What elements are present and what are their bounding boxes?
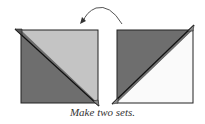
right-square-block (112, 25, 194, 104)
caption: Make two sets. (0, 106, 205, 118)
flip-arrow-icon (80, 7, 122, 24)
left-square-block (15, 29, 99, 106)
